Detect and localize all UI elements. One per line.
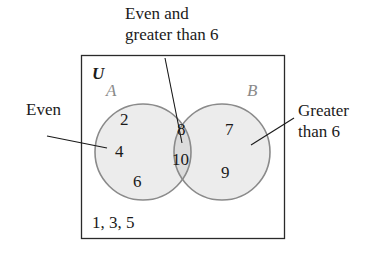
intersection-callout-line2: greater than 6 <box>125 25 218 44</box>
intersection-callout-line1: Even and <box>125 4 189 23</box>
element-a-only: 4 <box>115 142 124 161</box>
element-a-only: 6 <box>133 172 142 191</box>
outside-elements: 1, 3, 5 <box>92 213 135 232</box>
greater-callout-line2: than 6 <box>298 122 340 141</box>
even-callout: Even <box>26 100 61 119</box>
element-b-only: 9 <box>221 163 230 182</box>
set-b-label: B <box>247 81 258 100</box>
element-intersection: 10 <box>172 150 189 169</box>
universe-label: U <box>92 64 105 83</box>
greater-callout-line1: Greater <box>298 101 349 120</box>
venn-diagram: U A B 2 4 6 8 10 7 9 1, 3, 5 Even Even a… <box>0 0 379 256</box>
element-b-only: 7 <box>225 120 234 139</box>
element-a-only: 2 <box>120 110 129 129</box>
set-a-label: A <box>105 81 117 100</box>
